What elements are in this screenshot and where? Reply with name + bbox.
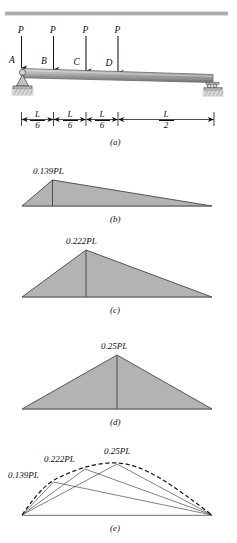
dimension-2-denominator: 6 xyxy=(63,121,78,130)
composite-triangle-b xyxy=(22,482,212,515)
load-arrows xyxy=(22,36,119,73)
dimension-label-1: L 6 xyxy=(30,110,45,130)
peak-value-label-b: 0.139PL xyxy=(33,167,64,176)
composite-value-label-d: 0.25PL xyxy=(104,447,130,456)
dimension-2-numerator: L xyxy=(63,110,78,119)
panel-c-moment-diagram xyxy=(22,250,212,297)
dimension-4-denominator: 2 xyxy=(159,121,174,130)
caption-a: (a) xyxy=(110,138,121,147)
envelope-curve xyxy=(22,463,212,515)
moment-shape-b xyxy=(22,180,212,206)
dimension-line xyxy=(22,112,215,126)
caption-b: (b) xyxy=(110,215,121,224)
node-label-A: A xyxy=(9,56,15,66)
composite-triangle-c xyxy=(22,469,212,515)
composite-value-label-b: 0.139PL xyxy=(8,471,39,480)
load-label-D: P xyxy=(115,26,121,36)
peak-value-label-c: 0.222PL xyxy=(66,237,97,246)
load-label-C: P xyxy=(83,26,89,36)
load-label-A: P xyxy=(18,26,24,36)
dimension-label-3: L 6 xyxy=(95,110,110,130)
panel-e-composite-diagram xyxy=(22,463,212,515)
caption-d: (d) xyxy=(110,418,121,427)
caption-c: (c) xyxy=(110,306,120,315)
support-roller-right xyxy=(203,82,224,96)
node-label-D: D xyxy=(106,59,113,69)
header-rule xyxy=(5,12,228,16)
peak-value-label-d: 0.25PL xyxy=(101,342,127,351)
dimension-label-2: L 6 xyxy=(63,110,78,130)
dimension-1-denominator: 6 xyxy=(30,121,45,130)
panel-d-moment-diagram xyxy=(22,355,212,409)
caption-e: (e) xyxy=(110,524,120,533)
dimension-4-numerator: L xyxy=(159,110,174,119)
panel-b-moment-diagram xyxy=(22,180,212,206)
composite-value-label-c: 0.222PL xyxy=(44,455,75,464)
figure-root: P P P P A B C D L 6 L 6 L 6 L 2 0.139PL … xyxy=(0,0,237,543)
figure-canvas xyxy=(0,0,237,543)
dimension-1-numerator: L xyxy=(30,110,45,119)
node-label-C: C xyxy=(74,58,80,68)
dimension-label-4: L 2 xyxy=(159,110,174,130)
node-label-B: B xyxy=(41,57,47,67)
moment-shape-c xyxy=(22,250,212,297)
load-label-B: P xyxy=(50,26,56,36)
dimension-3-denominator: 6 xyxy=(95,121,110,130)
dimension-3-numerator: L xyxy=(95,110,110,119)
composite-triangle-d xyxy=(22,464,212,515)
